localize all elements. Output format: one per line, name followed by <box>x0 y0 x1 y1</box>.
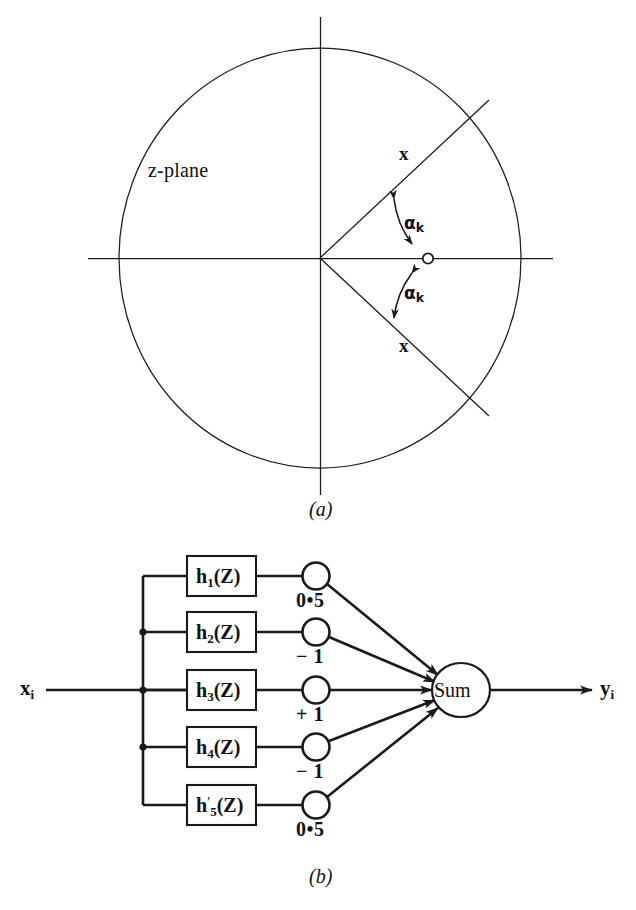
angle-lower-subscript: k <box>416 290 424 305</box>
weight-node-1[interactable] <box>303 563 330 590</box>
block-base-4: h <box>196 736 207 758</box>
weight-label-1: 0•5 <box>296 590 325 610</box>
angle-lower-symbol: α <box>404 283 416 303</box>
node-to-sum-1 <box>327 584 438 675</box>
input-label-base: x <box>20 676 31 700</box>
junction-dot-4 <box>139 743 146 750</box>
output-label-subscript: i <box>611 687 615 702</box>
block-arg-4: (Z) <box>214 736 241 758</box>
weight-label-3: + 1 <box>296 704 324 724</box>
pole-marker-lower-icon: x <box>399 336 409 355</box>
weight-node-3[interactable] <box>303 677 330 704</box>
caption-panel-a: (a) <box>309 499 332 519</box>
filter-block-label-4: h4(Z) <box>196 737 240 760</box>
panel-a-zplane <box>88 17 553 495</box>
filter-block-label-2: h2(Z) <box>196 622 240 645</box>
figure-root: z-plane x x αk αk (a) xi yi h1(Z) h2(Z) … <box>0 0 636 910</box>
filter-block-label-5: h′5(Z) <box>196 795 243 818</box>
pole-marker-upper-icon: x <box>399 144 409 163</box>
angle-upper-symbol: α <box>404 213 416 233</box>
angle-label-lower: αk <box>404 285 424 305</box>
angle-upper-subscript: k <box>416 220 424 235</box>
filter-block-label-3: h3(Z) <box>196 680 240 703</box>
block-arg-1: (Z) <box>214 565 241 587</box>
weight-label-4: − 1 <box>296 761 324 781</box>
junction-dot-3 <box>139 686 146 693</box>
weight-node-5[interactable] <box>303 792 330 819</box>
zero-marker-icon <box>423 253 433 263</box>
weight-node-2[interactable] <box>303 619 330 646</box>
block-base-5: h <box>196 794 207 816</box>
weight-label-5: 0•5 <box>296 819 325 839</box>
block-arg-2: (Z) <box>214 621 241 643</box>
output-label: yi <box>600 678 614 701</box>
block-base-3: h <box>196 679 207 701</box>
block-base-2: h <box>196 621 207 643</box>
node-to-sum-4 <box>329 700 435 741</box>
angle-label-upper: αk <box>404 215 424 235</box>
filter-block-label-1: h1(Z) <box>196 566 240 589</box>
input-label-subscript: i <box>31 687 35 702</box>
output-label-base: y <box>600 676 611 700</box>
block-arg-3: (Z) <box>214 679 241 701</box>
weight-node-4[interactable] <box>303 734 330 761</box>
junction-dot-2 <box>139 628 146 635</box>
weight-label-2: − 1 <box>296 646 324 666</box>
caption-panel-b: (b) <box>309 866 332 886</box>
input-label: xi <box>20 678 34 701</box>
sum-node-label: Sum <box>434 680 471 700</box>
block-base-1: h <box>196 565 207 587</box>
block-arg-5: (Z) <box>217 794 244 816</box>
z-plane-label: z-plane <box>148 160 208 180</box>
